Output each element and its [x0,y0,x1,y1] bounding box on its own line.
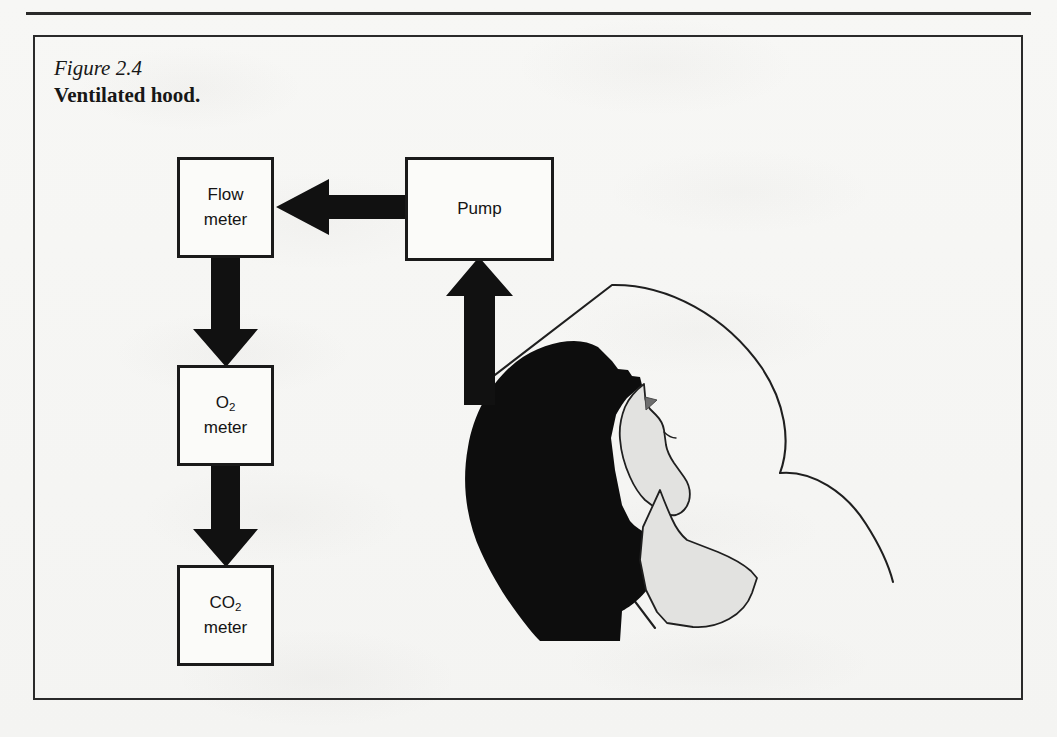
pump-label: Pump [457,197,501,222]
co2-meter-formula: CO [210,593,236,612]
flow-meter-label-line1: Flow [208,183,244,208]
diagram-box-co2-meter[interactable]: CO2 meter [177,565,274,666]
o2-meter-formula: O [216,393,229,412]
flow-meter-label-line2: meter [204,208,247,233]
co2-meter-subscript: 2 [235,601,241,613]
co2-meter-label-line1: CO2 [210,591,242,616]
diagram-box-flow-meter[interactable]: Flow meter [177,157,274,258]
o2-meter-label-line2: meter [204,416,247,441]
page-canvas: Figure 2.4 Ventilated hood. Fl [0,0,1057,737]
diagram-box-pump[interactable]: Pump [405,157,554,261]
o2-meter-subscript: 2 [229,401,235,413]
diagram-box-o2-meter[interactable]: O2 meter [177,365,274,466]
arrow-pump-to-flow-meter [276,179,405,235]
arrow-flow-meter-to-o2-meter [193,257,258,367]
o2-meter-label-line1: O2 [216,391,236,416]
arrow-o2-meter-to-co2-meter [193,464,258,567]
flow-arrow-layer [0,0,1057,737]
co2-meter-label-line2: meter [204,616,247,641]
arrow-hood-to-pump [446,257,513,405]
